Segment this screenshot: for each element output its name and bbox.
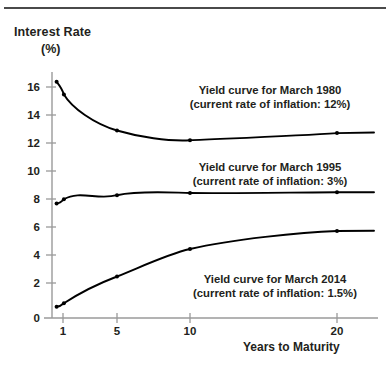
annotation-2014-line2: (current rate of inflation: 1.5%) <box>160 286 390 300</box>
y-axis-ticks <box>46 87 56 283</box>
annotation-2014: Yield curve for March 2014 (current rate… <box>160 272 390 300</box>
data-point <box>188 247 192 251</box>
data-point <box>188 138 192 142</box>
x-axis-title: Years to Maturity <box>243 340 340 354</box>
data-point <box>335 229 339 233</box>
x-tick-label: 10 <box>178 325 202 337</box>
series-1995-line <box>57 192 374 203</box>
y-tick-label: 16 <box>18 81 40 93</box>
annotation-1980-line1: Yield curve for March 1980 <box>155 83 385 97</box>
data-point <box>55 80 59 84</box>
y-tick-label: 10 <box>18 165 40 177</box>
annotation-2014-line1: Yield curve for March 2014 <box>160 272 390 286</box>
data-point <box>62 92 66 96</box>
data-point <box>55 305 59 309</box>
x-tick-label: 20 <box>325 325 349 337</box>
data-point <box>62 197 66 201</box>
annotation-1980-line2: (current rate of inflation: 12%) <box>155 97 385 111</box>
x-tick-label: 5 <box>105 325 129 337</box>
y-tick-label: 0 <box>18 312 40 324</box>
y-tick-label: 2 <box>18 277 40 289</box>
series-1995 <box>55 190 374 205</box>
data-point <box>62 301 66 305</box>
annotation-1980: Yield curve for March 1980 (current rate… <box>155 83 385 111</box>
annotation-1995-line2: (current rate of inflation: 3%) <box>155 174 385 188</box>
annotation-1995-line1: Yield curve for March 1995 <box>155 160 385 174</box>
y-tick-label: 4 <box>18 249 40 261</box>
yield-curve-figure: Interest Rate (%) <box>0 0 390 377</box>
data-point <box>335 131 339 135</box>
x-tick-label: 1 <box>51 325 75 337</box>
data-point <box>115 275 119 279</box>
data-point <box>115 193 119 197</box>
data-point <box>188 191 192 195</box>
y-tick-label: 6 <box>18 221 40 233</box>
data-point <box>55 201 59 205</box>
data-point <box>335 190 339 194</box>
y-tick-label: 12 <box>18 137 40 149</box>
annotation-1995: Yield curve for March 1995 (current rate… <box>155 160 385 188</box>
y-tick-label: 14 <box>18 109 40 121</box>
data-point <box>115 129 119 133</box>
y-tick-label: 8 <box>18 193 40 205</box>
plot-area <box>0 0 390 377</box>
